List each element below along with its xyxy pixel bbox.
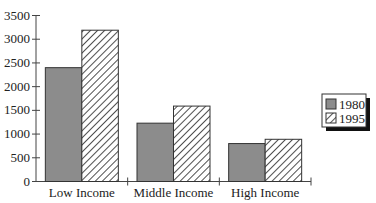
y-tick-label: 500 <box>11 150 31 165</box>
y-tick-label: 0 <box>24 174 31 189</box>
y-tick-label: 3500 <box>4 8 30 23</box>
legend-label: 1995 <box>339 111 365 126</box>
x-category-label: Middle Income <box>134 185 214 200</box>
bar-1980 <box>229 144 266 182</box>
bar-chart: 0500100015002000250030003500 Low IncomeM… <box>0 0 376 203</box>
legend-swatch-1995 <box>326 113 336 123</box>
bar-1995 <box>82 30 119 181</box>
y-tick-label: 1500 <box>4 102 30 117</box>
y-tick-label: 3000 <box>4 31 30 46</box>
y-tick-label: 2000 <box>4 79 30 94</box>
legend: 19801995 <box>322 94 370 131</box>
y-axis: 0500100015002000250030003500 <box>4 8 40 189</box>
legend-swatch-1980 <box>326 99 336 109</box>
bar-1995 <box>265 139 302 181</box>
x-category-label: High Income <box>231 185 299 200</box>
bar-1980 <box>137 123 174 181</box>
bar-1980 <box>45 68 81 182</box>
bars <box>45 30 301 181</box>
y-tick-label: 2500 <box>4 55 30 70</box>
bar-1995 <box>174 106 211 181</box>
y-tick-label: 1000 <box>4 126 30 141</box>
legend-label: 1980 <box>339 97 365 112</box>
x-category-label: Low Income <box>49 185 115 200</box>
